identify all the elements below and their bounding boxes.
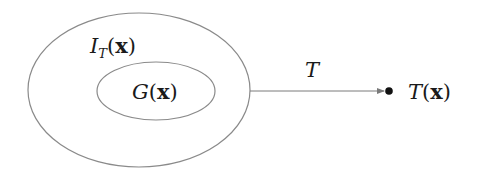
set-mapping-diagram: IT(x) G(x) T T(x) (0, 0, 486, 177)
inner-set-label-arg: x (157, 79, 170, 104)
outer-set-label-paren-close: ) (128, 34, 136, 58)
inner-set-label-main: G (132, 80, 149, 104)
map-arrow-label: T (305, 58, 321, 82)
outer-set-label: IT(x) (89, 33, 136, 61)
outer-set-label-paren-open: ( (107, 34, 115, 58)
inner-set-label-paren-close: ) (170, 80, 178, 104)
outer-set-label-arg: x (115, 33, 128, 58)
inner-set-label-paren-open: ( (149, 80, 157, 104)
image-point-dot (385, 87, 393, 95)
image-point-label-paren-close: ) (443, 80, 451, 104)
image-point-label-arg: x (430, 79, 443, 104)
image-point-label: T(x) (408, 79, 451, 104)
image-point-label-paren-open: ( (422, 80, 430, 104)
inner-set-label: G(x) (132, 79, 178, 104)
